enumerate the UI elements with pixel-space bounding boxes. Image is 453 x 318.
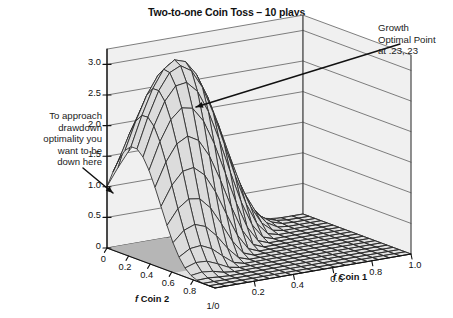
x-tick-0	[104, 248, 107, 252]
y-tick-label-0: 0.2	[252, 287, 265, 297]
x-tick-label-1: 0.2	[119, 262, 132, 272]
axis-label-text: Coin 2	[138, 294, 169, 304]
z-tick-label-4: 1.0	[88, 180, 101, 190]
z-tick-label-5: 0.5	[88, 210, 101, 220]
growth-optimal-note-line-1: Growth	[378, 22, 453, 34]
origin-corner-label: 1/0	[207, 301, 220, 311]
z-tick-label-6: 0	[96, 241, 101, 251]
x-tick-label-4: 0.8	[183, 286, 196, 296]
x-tick-4	[191, 280, 194, 284]
x-tick-label-0: 0	[101, 254, 106, 264]
growth-optimal-note-line-2: Optimal Point	[378, 34, 453, 46]
y-tick-0	[254, 281, 255, 286]
z-tick-label-1: 2.5	[88, 88, 101, 98]
z-tick-label-3: 1.5	[88, 149, 101, 159]
z-tick-label-2: 2.0	[88, 119, 101, 129]
y-tick-4	[411, 254, 412, 259]
x-tick-label-3: 0.6	[162, 278, 175, 288]
growth-optimal-note-line-3: at .23,.23	[378, 45, 453, 57]
drawdown-note-line-3: optimality you	[4, 133, 102, 145]
x-tick-1	[126, 256, 129, 260]
x-tick-3	[169, 272, 172, 276]
y-tick-label-2: 0.6	[330, 274, 343, 284]
y-tick-label-1: 0.4	[291, 280, 304, 290]
x-axis-label: f Coin 2	[135, 294, 169, 304]
growth-optimal-annotation: GrowthOptimal Pointat .23,.23	[378, 22, 453, 57]
surface-chart-figure: Two-to-one Coin Toss – 10 plays To appro…	[0, 0, 453, 318]
x-tick-label-2: 0.4	[140, 270, 153, 280]
x-tick-2	[148, 264, 151, 268]
y-tick-1	[293, 274, 294, 279]
y-tick-3	[372, 261, 373, 266]
y-tick-label-3: 0.8	[369, 267, 382, 277]
y-tick-label-4: 1.0	[409, 260, 422, 270]
z-tick-label-0: 3.0	[88, 57, 101, 67]
